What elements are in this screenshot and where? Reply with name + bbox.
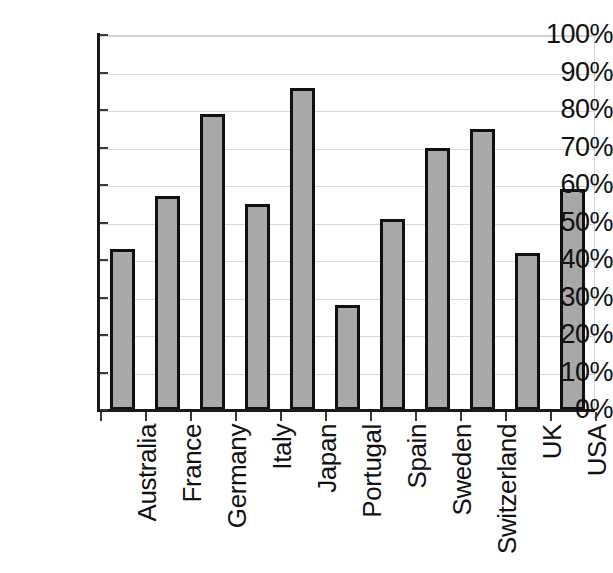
x-axis-line <box>97 409 595 412</box>
x-tick-label: UK <box>539 424 565 459</box>
x-tick-mark <box>325 412 327 421</box>
x-tick-label: Japan <box>314 424 340 493</box>
x-tick-mark <box>505 412 507 421</box>
x-tick-label: France <box>179 424 205 503</box>
y-tick-label: 60% <box>525 171 613 198</box>
x-tick-mark <box>190 412 192 421</box>
bar <box>245 204 270 410</box>
y-tick-mark <box>100 109 108 111</box>
y-tick-label: 100% <box>525 21 613 48</box>
y-tick-mark <box>100 147 108 149</box>
gridline <box>100 111 595 112</box>
x-tick-label: Sweden <box>449 424 475 516</box>
x-tick-mark <box>550 412 552 421</box>
gridline <box>100 36 595 37</box>
x-tick-label: Spain <box>404 424 430 489</box>
x-tick-label: Switzerland <box>494 424 520 554</box>
x-tick-label: Portugal <box>359 424 385 518</box>
bar <box>335 305 360 410</box>
y-tick-label: 0% <box>525 396 613 423</box>
x-tick-label: USA <box>584 424 610 476</box>
y-tick-label: 50% <box>525 209 613 236</box>
bar <box>380 219 405 410</box>
x-tick-mark <box>145 412 147 421</box>
gridline <box>100 186 595 187</box>
bar <box>290 88 315 411</box>
y-tick-label: 80% <box>525 96 613 123</box>
gridline <box>100 74 595 75</box>
y-tick-label: 20% <box>525 321 613 348</box>
bar <box>425 148 450 411</box>
x-tick-mark <box>370 412 372 421</box>
y-tick-mark <box>100 334 108 336</box>
gridline <box>100 149 595 150</box>
y-tick-mark <box>100 222 108 224</box>
y-tick-label: 90% <box>525 59 613 86</box>
x-tick-mark <box>460 412 462 421</box>
y-tick-mark <box>100 72 108 74</box>
x-tick-label: Italy <box>269 424 295 470</box>
bar-chart: 0%10%20%30%40%50%60%70%80%90%100% Austra… <box>0 0 613 573</box>
y-tick-mark <box>100 34 108 36</box>
x-tick-label: Australia <box>134 424 160 522</box>
y-tick-label: 30% <box>525 284 613 311</box>
x-tick-mark <box>235 412 237 421</box>
y-tick-mark <box>100 297 108 299</box>
x-tick-mark <box>100 412 102 421</box>
y-tick-mark <box>100 259 108 261</box>
bar <box>470 129 495 410</box>
bar <box>200 114 225 410</box>
plot-area <box>100 35 595 410</box>
bar <box>155 196 180 410</box>
x-tick-mark <box>280 412 282 421</box>
y-tick-label: 70% <box>525 134 613 161</box>
y-tick-mark <box>100 372 108 374</box>
x-tick-mark <box>595 412 597 421</box>
x-tick-mark <box>415 412 417 421</box>
y-tick-mark <box>100 409 108 411</box>
y-tick-label: 10% <box>525 359 613 386</box>
y-tick-mark <box>100 184 108 186</box>
bar <box>110 249 135 410</box>
y-tick-label: 40% <box>525 246 613 273</box>
x-tick-label: Germany <box>224 424 250 528</box>
